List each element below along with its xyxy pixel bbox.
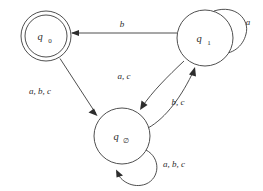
transition-qempty-to-q1[interactable]: b, c [148,67,196,128]
state-node-q0[interactable]: q 0 [21,11,71,61]
transition-q1-self-loop-label: a [246,17,251,27]
state-node-qempty[interactable]: q ∅ [94,108,150,164]
arrowhead-into-q1-from-qempty [189,67,196,77]
transition-q1-to-q0-label: b [120,19,125,29]
transition-qempty-self-loop-label: a, b, c [163,159,185,169]
state-q0-label: q [37,31,42,42]
transition-qempty-to-q1-label: b, c [172,97,185,107]
arrowhead-into-q0 [71,30,79,36]
state-diagram-svg: b a, b, c a, c b, c a [0,0,263,191]
transition-q0-to-qempty-path [60,59,96,114]
state-node-q1[interactable]: q 1 [177,10,233,66]
state-q1-label: q [196,33,201,44]
state-qempty-label: q [113,131,118,142]
transition-q1-to-qempty-label: a, c [118,71,131,81]
arrowhead-into-qempty-from-q1 [140,101,148,111]
state-q1-outer-circle [177,10,233,66]
transition-q1-to-q0[interactable]: b [71,19,178,36]
state-diagram-canvas: b a, b, c a, c b, c a [0,0,263,191]
arrowhead-qempty-self-loop [116,170,123,178]
state-q0-subscript: 0 [48,37,52,45]
state-q0-inner-circle [25,15,67,57]
transition-q0-to-qempty[interactable]: a, b, c [29,59,98,117]
state-qempty-subscript: ∅ [123,137,129,145]
state-q1-subscript: 1 [207,39,211,47]
arrowhead-into-qempty-from-q0 [89,109,98,117]
state-qempty-outer-circle [94,108,150,164]
transition-q0-to-qempty-label: a, b, c [29,86,51,96]
